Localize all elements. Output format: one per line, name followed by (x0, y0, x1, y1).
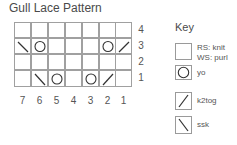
k2tog-icon (116, 39, 133, 55)
ssk-icon (176, 117, 191, 133)
chart-cell (82, 54, 99, 70)
row-label: 1 (136, 72, 146, 83)
key-label-knit-purl: RS: knit WS: purl (197, 43, 228, 63)
column-label: 5 (48, 95, 65, 106)
chart-cell (115, 54, 132, 70)
chart-cell (14, 54, 31, 70)
key-swatch-ssk (175, 116, 192, 134)
ssk-icon (32, 71, 49, 88)
column-label: 4 (65, 95, 82, 106)
chart-cell-yo (99, 38, 116, 54)
column-label: 6 (31, 95, 48, 106)
column-label: 3 (82, 95, 99, 106)
ssk-icon (15, 39, 32, 55)
chart-cell (48, 38, 65, 54)
chart-cell (99, 54, 116, 70)
column-label: 2 (99, 95, 116, 106)
chart-cell (31, 22, 48, 38)
chart-title: Gull Lace Pattern (9, 1, 102, 15)
chart-cell (115, 70, 132, 87)
key-swatch-k2tog (175, 92, 192, 110)
yo-icon (32, 39, 49, 55)
row-label: 3 (136, 40, 146, 51)
column-label: 1 (115, 95, 132, 106)
row-label: 2 (136, 56, 146, 67)
chart-cell-yo (82, 70, 99, 87)
knitting-chart-grid (14, 22, 132, 87)
row-label: 4 (136, 24, 146, 35)
chart-cell (31, 54, 48, 70)
chart-cell-k2tog (115, 38, 132, 54)
key-label-yo: yo (197, 68, 205, 78)
chart-cell-k2tog (99, 70, 116, 87)
chart-cell (65, 70, 82, 87)
chart-cell (14, 70, 31, 87)
key-label-ssk: ssk (197, 120, 209, 130)
yo-icon (176, 66, 191, 79)
yo-icon (49, 71, 66, 88)
key-swatch-yo (175, 65, 192, 80)
chart-cell (48, 22, 65, 38)
chart-cell-yo (31, 38, 48, 54)
chart-cell (14, 22, 31, 38)
chart-cell (82, 38, 99, 54)
chart-cell-yo (48, 70, 65, 87)
chart-cell-ssk (31, 70, 48, 87)
k2tog-icon (176, 93, 191, 109)
chart-cell (99, 22, 116, 38)
chart-cell (65, 54, 82, 70)
chart-cell (65, 22, 82, 38)
chart-cell (65, 38, 82, 54)
key-label-k2tog: k2tog (197, 96, 217, 106)
key-swatch-blank (175, 43, 192, 60)
key-title: Key (175, 21, 194, 33)
key-label-line: WS: purl (197, 53, 228, 63)
column-label: 7 (14, 95, 31, 106)
chart-cell (115, 22, 132, 38)
yo-icon (83, 71, 100, 88)
chart-cell-ssk (14, 38, 31, 54)
chart-cell (82, 22, 99, 38)
key-label-line: RS: knit (197, 43, 228, 53)
chart-cell (48, 54, 65, 70)
